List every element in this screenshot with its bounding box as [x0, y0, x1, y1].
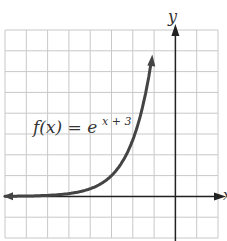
y-axis-label: y	[167, 7, 178, 26]
x-axis-label: x	[223, 187, 227, 203]
function-label: f(x) = e	[31, 117, 97, 137]
exponential-graph: f(x) = ex + 3yx	[0, 0, 227, 241]
exponent-label: x + 3	[102, 115, 131, 128]
